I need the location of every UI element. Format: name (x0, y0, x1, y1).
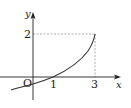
y-axis-label: y (24, 8, 31, 19)
x-tick-label-3: 3 (91, 78, 98, 91)
x-axis-label: x (116, 79, 122, 90)
x-tick-label-1: 1 (50, 78, 57, 91)
y-tick-label-2: 2 (24, 28, 31, 41)
function-graph: y x O 1 3 2 (0, 0, 131, 108)
origin-label: O (23, 77, 32, 90)
